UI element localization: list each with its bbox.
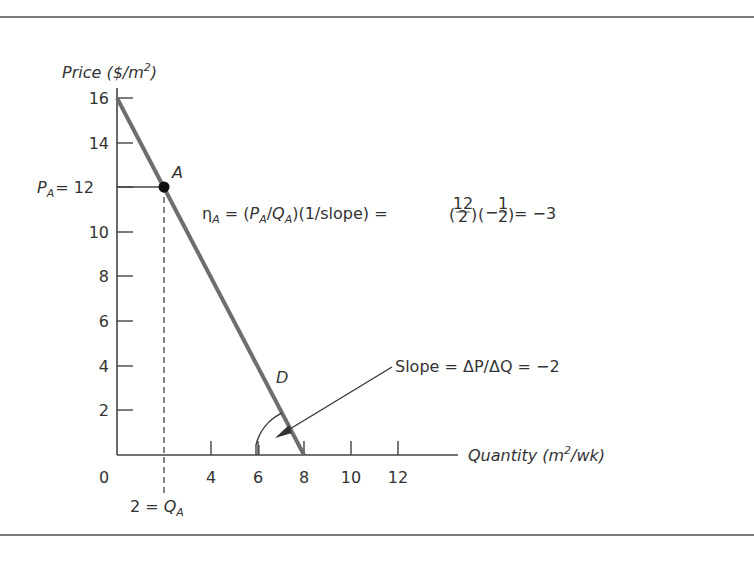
y-ticks: [117, 98, 133, 410]
svg-text:(: (: [478, 205, 484, 224]
slope-arrow-head-icon: [275, 425, 292, 438]
frac1-denominator: 2: [458, 207, 468, 226]
y-tick-label: 2: [99, 401, 109, 420]
slope-annotation: Slope = ΔP/ΔQ = −2: [395, 357, 560, 376]
svg-text:−: −: [485, 203, 498, 222]
y-tick-label: 16: [89, 89, 109, 108]
curve-d-label: D: [276, 368, 288, 387]
demand-chart: 16 14 10 8 6 4 2 PA= 12 0 4 6 8 10 12 2 …: [0, 0, 754, 565]
y-tick-label: 8: [99, 267, 109, 286]
svg-text:): ): [471, 205, 477, 224]
x-tick-label: 10: [341, 468, 361, 487]
y-tick-label: 6: [99, 312, 109, 331]
svg-text:ηA = (PA/QA)(1/slope) =: ηA = (PA/QA)(1/slope) =: [202, 204, 388, 226]
y-tick-label: 14: [89, 134, 109, 153]
elasticity-formula: ηA = (PA/QA)(1/slope) = ( 12 2 ) ( − 1 2…: [202, 194, 556, 226]
slope-arrow-line: [285, 367, 392, 432]
x-axis-title: Quantity (m2/wk): [468, 444, 605, 465]
point-a-label: A: [171, 163, 183, 182]
y-axis-title: Price ($/m2): [62, 61, 157, 82]
y-tick-label: 10: [89, 223, 109, 242]
x-tick-labels: 0 4 6 8 10 12: [99, 468, 408, 487]
point-a-marker: [159, 182, 170, 193]
y-tick-label: 4: [99, 357, 109, 376]
y-tick-labels: 16 14 10 8 6 4 2: [89, 89, 109, 420]
pa-label: PA= 12: [37, 178, 94, 200]
origin-label: 0: [99, 468, 109, 487]
x-tick-label: 12: [388, 468, 408, 487]
slope-angle-arc: [256, 413, 282, 455]
x-tick-label: 4: [206, 468, 216, 487]
x-tick-label: 8: [299, 468, 309, 487]
qa-label: 2 = QA: [130, 497, 184, 519]
demand-curve-d: [117, 98, 304, 455]
x-tick-label: 6: [253, 468, 263, 487]
elasticity-result: = −3: [514, 204, 556, 223]
frac2-denominator: 2: [498, 207, 508, 226]
